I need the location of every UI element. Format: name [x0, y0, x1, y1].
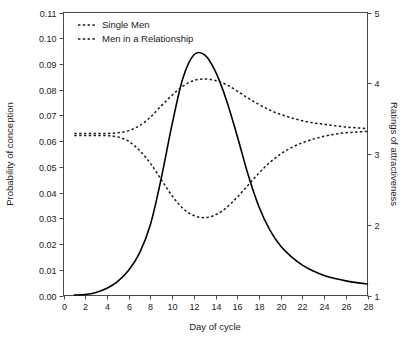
x-tick-label: 14: [211, 302, 221, 312]
x-tick-label: 10: [167, 302, 177, 312]
legend-label-1: Men in a Relationship: [102, 33, 193, 44]
chart-figure: 0246810121416182022242628 0.000.010.020.…: [0, 0, 403, 345]
y-axis-ticks: 0.000.010.020.030.040.050.060.070.080.09…: [39, 9, 64, 302]
y-tick-label: 0.04: [39, 189, 57, 199]
y-tick-label: 0.02: [39, 240, 57, 250]
x-tick-label: 12: [189, 302, 199, 312]
y-tick-label: 0.11: [40, 9, 57, 19]
series-line-2: [74, 131, 367, 217]
y2-tick-label: 5: [375, 9, 380, 19]
y2-tick-label: 1: [375, 292, 380, 302]
y-tick-label: 0.00: [39, 292, 57, 302]
y2-tick-label: 4: [375, 79, 380, 89]
x-tick-label: 20: [276, 302, 286, 312]
y-tick-label: 0.05: [39, 163, 57, 173]
x-axis-ticks: 0246810121416182022242628: [62, 296, 374, 312]
x-tick-label: 26: [341, 302, 351, 312]
x-tick-label: 22: [297, 302, 307, 312]
y2-tick-label: 2: [375, 221, 380, 231]
x-tick-label: 4: [105, 302, 110, 312]
x-tick-label: 8: [148, 302, 153, 312]
y2-axis-title: Ratings of attractiveness: [389, 102, 400, 206]
x-tick-label: 0: [62, 302, 67, 312]
data-series-group: [74, 52, 367, 295]
y2-axis-ticks: 12345: [368, 9, 380, 302]
y-tick-label: 0.08: [39, 86, 57, 96]
x-tick-label: 2: [83, 302, 88, 312]
legend-label-0: Single Men: [102, 19, 150, 30]
x-tick-label: 24: [319, 302, 329, 312]
y-axis-title: Probability of conception: [4, 102, 15, 206]
y-tick-label: 0.03: [39, 214, 57, 224]
y2-tick-label: 3: [375, 150, 380, 160]
x-tick-label: 16: [232, 302, 242, 312]
conception-attractiveness-chart: 0246810121416182022242628 0.000.010.020.…: [0, 0, 403, 345]
y-tick-label: 0.10: [39, 34, 57, 44]
chart-legend: Single MenMen in a Relationship: [78, 19, 193, 44]
series-line-0: [74, 52, 367, 295]
y-tick-label: 0.07: [39, 111, 57, 121]
plot-frame: [64, 13, 368, 296]
x-tick-label: 6: [127, 302, 132, 312]
x-tick-label: 28: [363, 302, 373, 312]
y-tick-label: 0.09: [39, 60, 57, 70]
y-tick-label: 0.01: [39, 266, 57, 276]
series-line-1: [74, 79, 367, 134]
x-axis-title: Day of cycle: [189, 321, 241, 332]
y-tick-label: 0.06: [39, 137, 57, 147]
x-tick-label: 18: [254, 302, 264, 312]
